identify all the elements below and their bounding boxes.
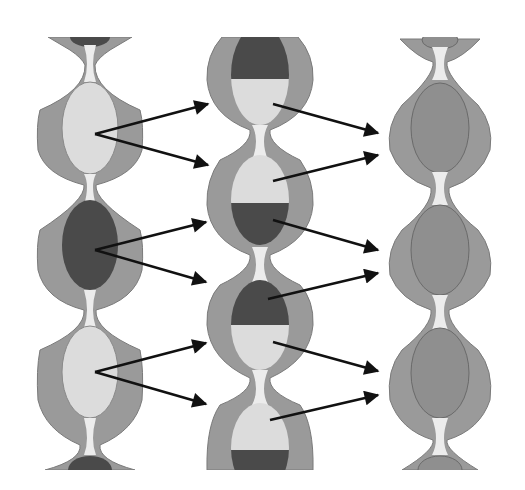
right-segment-1 [411, 83, 469, 173]
left-dark-segment [62, 200, 118, 290]
middle-column [207, 25, 313, 490]
left-light-segment-1 [62, 82, 118, 174]
right-column [389, 31, 491, 484]
right-segment-3 [411, 328, 469, 418]
right-segment-2 [411, 205, 469, 295]
left-column [37, 27, 142, 484]
segment-diagram [0, 0, 525, 490]
left-light-segment-2 [62, 326, 118, 418]
